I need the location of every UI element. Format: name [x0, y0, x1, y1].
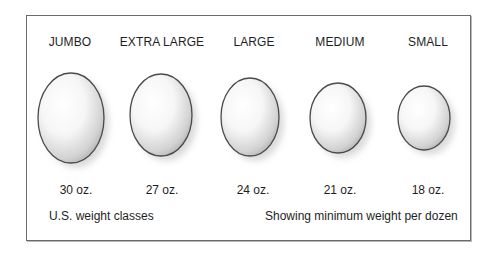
- egg-jumbo: [38, 73, 109, 168]
- weight-medium: 21 oz.: [324, 183, 357, 197]
- weight-small: 18 oz.: [412, 183, 445, 197]
- caption-minimum-weight: Showing minimum weight per dozen: [265, 209, 458, 223]
- egg-medium: [310, 83, 371, 158]
- egg-large: [221, 78, 284, 161]
- weight-jumbo: 30 oz.: [60, 183, 93, 197]
- weight-large: 24 oz.: [237, 183, 270, 197]
- weight-extra-large: 27 oz.: [146, 183, 179, 197]
- egg-extra-large: [130, 74, 197, 161]
- egg-small: [398, 86, 455, 155]
- caption-weight-classes: U.S. weight classes: [49, 209, 154, 223]
